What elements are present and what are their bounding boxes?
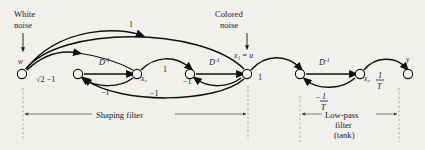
node-n4 (185, 69, 194, 78)
node-label-y: y (405, 55, 410, 64)
node-x1 (242, 69, 251, 78)
caption-low-pass-line2: filter (335, 120, 352, 130)
node-n6 (295, 69, 304, 78)
annotation-colored-noise: Colored noise x₁ = u (215, 9, 253, 60)
edge-label-w-n2: √2 −1 (36, 75, 55, 84)
caption-low-pass-filter: Low-pass filter (tank) (302, 110, 397, 140)
edge-label-x1-n6: 1 (258, 73, 262, 82)
node-n2 (73, 69, 82, 78)
edge-x3-to-y: 1 T (364, 59, 406, 91)
edge-label-n4-x1: D-1 (208, 57, 220, 67)
white-noise-label-line1: White (14, 9, 35, 19)
fraction-numerator: 1 (322, 92, 326, 101)
node-label-w: w (18, 57, 23, 66)
edge-n6-to-x3: D-1 (306, 57, 354, 74)
node-label-x2: x₂ (140, 74, 147, 83)
caption-shaping-filter: Shaping filter (25, 110, 246, 120)
edge-x1-to-n4-feedback (196, 78, 241, 86)
edge-label-n6-x3: D-1 (318, 57, 330, 67)
caption-shaping-filter-label: Shaping filter (96, 110, 143, 120)
edge-label-top-arc: 1 (129, 20, 133, 29)
fraction-numerator-out: 1 (378, 71, 382, 80)
colored-noise-label-line2: noise (220, 20, 238, 30)
node-w (17, 69, 26, 78)
caption-low-pass-line3: (tank) (334, 130, 355, 140)
node-y (403, 69, 412, 78)
caption-low-pass-line1: Low-pass (325, 110, 359, 120)
edge-label-lower-arc: −1 (150, 89, 159, 98)
white-noise-label-line2: noise (14, 20, 32, 30)
edge-x2-to-n4: 1 (141, 59, 190, 74)
edge-label-x3-y-fraction: 1 T (376, 71, 384, 91)
colored-noise-node-label: x₁ = u (233, 51, 253, 60)
edge-label-x2-n4: 1 (163, 65, 167, 74)
edge-x3-to-n6-feedback: − 1 T (306, 78, 355, 112)
signal-flow-graph-figure: White noise Colored noise x₁ = u 1 √2 −1… (0, 0, 425, 150)
edge-x1-to-n6: 1 (251, 58, 300, 82)
annotation-white-noise: White noise (14, 9, 35, 50)
node-label-x3: x₃ (363, 74, 370, 83)
colored-noise-label-line1: Colored (215, 9, 243, 19)
fraction-denominator-out: T (377, 82, 383, 91)
edge-label-x3-n6-fraction: − 1 T (316, 92, 328, 112)
edge-label-n2-x2: D-1 (98, 57, 110, 67)
